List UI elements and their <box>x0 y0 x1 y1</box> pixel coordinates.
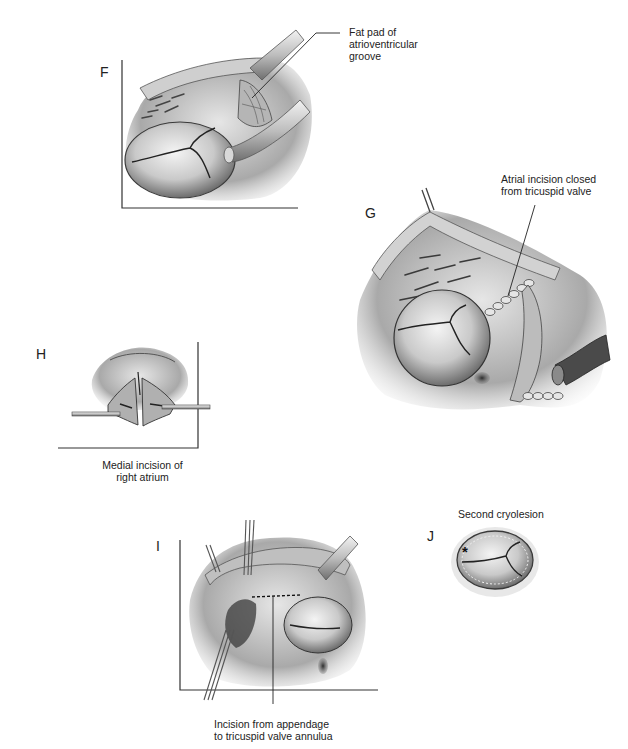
label-atrial-incision-line1: Atrial incision closed <box>501 173 596 185</box>
label-atrial-incision-line2: from tricuspid valve <box>501 185 596 197</box>
caption-incision-line1: Incision from appendage <box>214 718 333 730</box>
label-fat-pad: Fat pad of atrioventricular groove <box>349 26 418 62</box>
panel-h-illustration <box>58 342 210 448</box>
figure-artwork <box>0 0 628 749</box>
label-fat-pad-line3: groove <box>349 50 418 62</box>
caption-incision-line2: to tricuspid valve annulua <box>214 730 333 742</box>
panel-f-illustration <box>122 30 340 208</box>
caption-medial-incision: Medial incision of right atrium <box>80 459 205 483</box>
panel-g-illustration <box>357 188 610 409</box>
panel-letter-i: I <box>156 538 160 554</box>
label-fat-pad-line2: atrioventricular <box>349 38 418 50</box>
panel-letter-f: F <box>100 64 109 80</box>
panel-letter-g: G <box>365 205 376 221</box>
panel-j-illustration <box>451 527 539 597</box>
cryolesion-asterisk-marker: * <box>462 543 468 560</box>
panel-i-illustration <box>180 520 378 704</box>
caption-medial-incision-line2: right atrium <box>80 471 205 483</box>
panel-letter-j: J <box>427 528 434 544</box>
label-atrial-incision-closed: Atrial incision closed from tricuspid va… <box>501 173 596 197</box>
label-fat-pad-line1: Fat pad of <box>349 26 418 38</box>
caption-second-cryolesion: Second cryolesion <box>458 508 544 520</box>
caption-medial-incision-line1: Medial incision of <box>80 459 205 471</box>
caption-incision-from-appendage: Incision from appendage to tricuspid val… <box>214 718 333 742</box>
panel-letter-h: H <box>36 346 46 362</box>
